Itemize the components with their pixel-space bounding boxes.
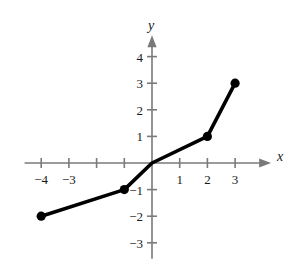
data-point-markers — [37, 79, 240, 221]
y-tick-label: −1 — [129, 183, 143, 196]
x-tick-label: −4 — [34, 173, 48, 186]
x-tick-label: 2 — [204, 173, 211, 186]
y-tick-label: −2 — [129, 210, 143, 223]
axis-layer — [25, 35, 272, 258]
y-axis-label: y — [148, 19, 154, 33]
y-axis-arrowhead — [147, 35, 156, 47]
data-point-marker — [120, 185, 129, 194]
y-tick-label: 2 — [137, 103, 144, 116]
x-tick-label: 1 — [176, 173, 183, 186]
y-tick-label: 3 — [137, 77, 144, 90]
coordinate-plane — [0, 0, 294, 267]
data-point-marker — [203, 132, 212, 141]
x-axis-arrowhead — [259, 158, 271, 167]
data-point-marker — [231, 79, 240, 88]
data-point-marker — [37, 212, 46, 221]
y-tick-label: 1 — [137, 130, 144, 143]
graph-figure: −4−31234321−1−2−3xy — [0, 0, 294, 267]
y-tick-label: 4 — [137, 50, 144, 63]
x-tick-label: −3 — [62, 173, 76, 186]
y-tick-label: −3 — [129, 236, 143, 249]
x-tick-label: 3 — [232, 173, 239, 186]
x-axis-label: x — [277, 150, 283, 164]
